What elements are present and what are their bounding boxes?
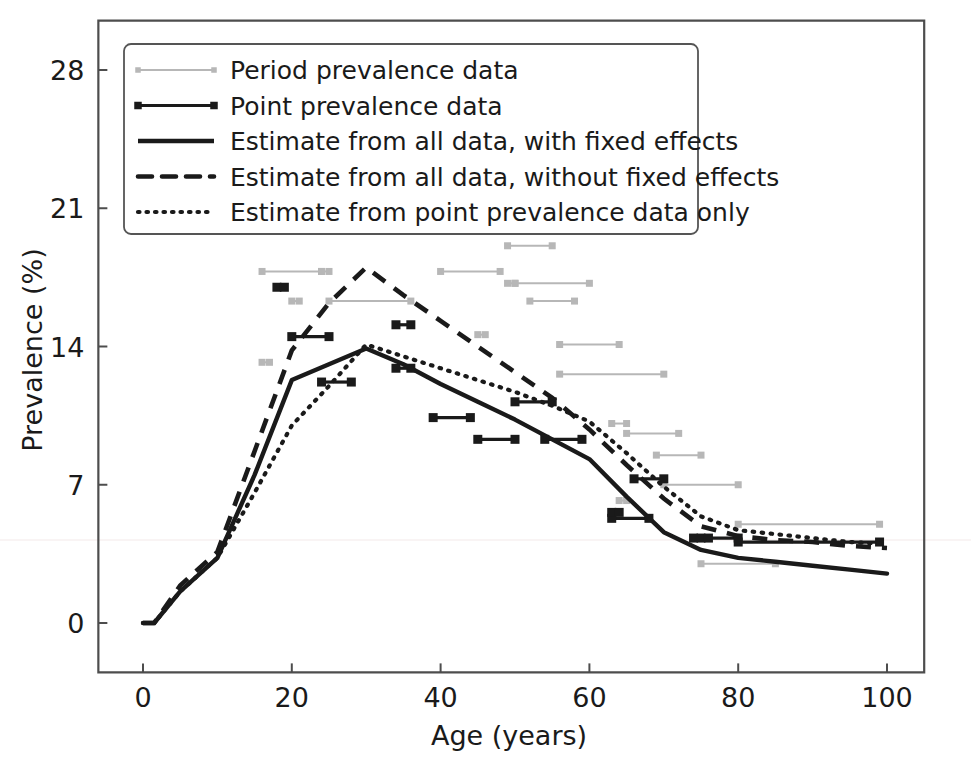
point-prevalence-series	[272, 283, 884, 547]
x-axis-label: Age (years)	[431, 720, 587, 751]
period-prevalence-interval-endpoint	[259, 359, 266, 366]
x-tick-label: 40	[423, 682, 457, 713]
period-prevalence-interval-endpoint	[623, 420, 630, 427]
period-prevalence-interval-endpoint	[735, 521, 742, 528]
point-prevalence-interval-endpoint	[473, 435, 482, 444]
period-prevalence-interval-endpoint	[556, 341, 563, 348]
period-prevalence-interval	[623, 430, 682, 437]
point-prevalence-interval-endpoint	[391, 364, 400, 373]
period-prevalence-interval	[512, 280, 593, 287]
period-prevalence-interval-endpoint	[326, 298, 333, 305]
period-prevalence-interval-endpoint	[616, 497, 623, 504]
y-tick-label: 21	[50, 193, 84, 224]
point-prevalence-interval-endpoint	[429, 413, 438, 422]
period-prevalence-interval-endpoint	[526, 298, 533, 305]
point-prevalence-interval	[317, 378, 356, 387]
period-prevalence-interval-endpoint	[474, 331, 481, 338]
period-prevalence-interval-endpoint	[407, 298, 414, 305]
point-prevalence-interval	[287, 332, 333, 341]
period-prevalence-interval	[526, 298, 578, 305]
period-prevalence-interval	[608, 420, 630, 427]
period-prevalence-interval	[288, 298, 302, 305]
point-prevalence-interval	[697, 534, 713, 543]
period-prevalence-interval-endpoint	[876, 521, 883, 528]
period-prevalence-interval-endpoint	[698, 560, 705, 567]
point-prevalence-interval-endpoint	[280, 283, 289, 292]
x-tick-label: 60	[572, 682, 606, 713]
period-prevalence-interval	[326, 298, 415, 305]
y-tick-label: 28	[50, 55, 84, 86]
period-prevalence-interval-endpoint	[318, 268, 325, 275]
point-prevalence-interval-endpoint	[704, 534, 713, 543]
legend-item-4[interactable]: Estimate from all data, without fixed ef…	[138, 163, 779, 192]
period-prevalence-interval-endpoint	[296, 298, 303, 305]
point-prevalence-interval	[272, 283, 288, 292]
x-tick-label: 20	[275, 682, 309, 713]
legend-label: Point prevalence data	[230, 92, 503, 121]
period-prevalence-interval-endpoint	[288, 298, 295, 305]
point-prevalence-interval-endpoint	[615, 508, 624, 517]
period-prevalence-interval-endpoint	[698, 452, 705, 459]
point-prevalence-interval-endpoint	[347, 378, 356, 387]
period-prevalence-interval-endpoint	[623, 430, 630, 437]
point-prevalence-interval	[473, 435, 519, 444]
period-prevalence-interval-endpoint	[675, 430, 682, 437]
point-prevalence-interval-endpoint	[630, 474, 639, 483]
period-prevalence-interval	[259, 359, 273, 366]
point-prevalence-interval-endpoint	[466, 413, 475, 422]
legend-label: Estimate from point prevalence data only	[230, 198, 750, 227]
period-prevalence-interval-endpoint	[571, 298, 578, 305]
period-prevalence-interval-endpoint	[616, 341, 623, 348]
x-tick-label: 0	[134, 682, 151, 713]
y-axis-label: Prevalence (%)	[17, 248, 48, 451]
period-prevalence-interval	[437, 268, 504, 275]
period-prevalence-interval-endpoint	[549, 242, 556, 249]
point-prevalence-interval-endpoint	[325, 332, 334, 341]
x-axis-ticks: 020406080100	[134, 663, 912, 713]
estimate-series-group	[143, 268, 887, 624]
legend-label: Estimate from all data, without fixed ef…	[230, 163, 779, 192]
legend-item-5[interactable]: Estimate from point prevalence data only	[138, 198, 750, 227]
prevalence-line-chart: 020406080100 07142128 Age (years) Preval…	[0, 0, 971, 763]
period-prevalence-interval	[660, 481, 741, 488]
period-prevalence-interval	[259, 268, 326, 275]
x-tick-label: 100	[861, 682, 913, 713]
period-prevalence-interval-endpoint	[504, 280, 511, 287]
period-prevalence-interval	[735, 521, 883, 528]
period-prevalence-interval	[556, 371, 667, 378]
y-tick-label: 0	[67, 608, 84, 639]
period-prevalence-interval	[556, 341, 623, 348]
period-prevalence-interval-endpoint	[653, 452, 660, 459]
period-prevalence-interval-endpoint	[735, 481, 742, 488]
point-prevalence-interval-endpoint	[511, 435, 520, 444]
period-prevalence-interval-endpoint	[608, 420, 615, 427]
period-prevalence-interval	[653, 452, 705, 459]
period-prevalence-interval-endpoint	[504, 242, 511, 249]
estimate-line-dotted	[143, 345, 887, 623]
period-prevalence-interval-endpoint	[482, 331, 489, 338]
point-prevalence-interval-endpoint	[577, 435, 586, 444]
period-prevalence-interval-endpoint	[259, 268, 266, 275]
estimate-line-solid	[143, 348, 887, 623]
period-prevalence-interval	[504, 242, 556, 249]
point-prevalence-interval	[607, 508, 623, 517]
period-prevalence-interval	[318, 268, 332, 275]
period-prevalence-interval-endpoint	[437, 268, 444, 275]
period-prevalence-interval-endpoint	[266, 359, 273, 366]
point-prevalence-interval	[429, 413, 475, 422]
y-tick-label: 7	[67, 470, 84, 501]
point-prevalence-interval-endpoint	[734, 538, 743, 547]
estimate-line-dashed	[143, 268, 887, 624]
period-prevalence-interval	[474, 331, 488, 338]
y-tick-label: 14	[50, 332, 84, 363]
period-prevalence-interval-endpoint	[556, 371, 563, 378]
legend-label: Estimate from all data, with fixed effec…	[230, 127, 738, 156]
period-prevalence-interval-endpoint	[512, 280, 519, 287]
legend-label: Period prevalence data	[230, 56, 519, 85]
chart-legend[interactable]: Period prevalence dataPoint prevalence d…	[124, 44, 779, 234]
point-prevalence-interval-endpoint	[511, 397, 520, 406]
period-prevalence-interval-endpoint	[326, 268, 333, 275]
point-prevalence-interval	[630, 474, 669, 483]
period-prevalence-interval-endpoint	[660, 371, 667, 378]
point-prevalence-interval	[391, 320, 415, 329]
